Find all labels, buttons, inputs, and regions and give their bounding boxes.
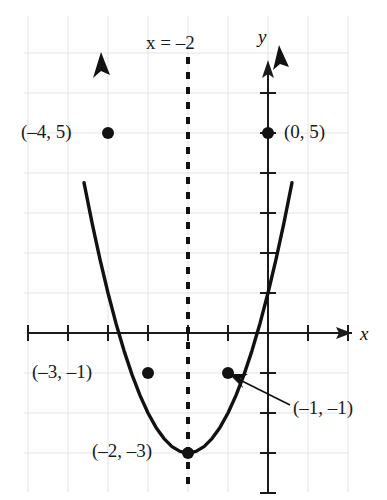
data-point-p-n1-n1	[222, 367, 234, 379]
y-axis-label: y	[258, 27, 266, 46]
data-point-p-n3-n1	[142, 367, 154, 379]
data-point-p-0-5	[262, 127, 274, 139]
x-axis-label: x	[360, 324, 368, 343]
point-label-0-5: (0, 5)	[284, 122, 325, 141]
data-point-p-n4-5	[102, 127, 114, 139]
data-point-p-n2-n3	[182, 447, 194, 459]
curve-left-arrowhead	[93, 52, 110, 78]
graph-figure: x y x = –2 (–4, 5) (0, 5) (–3, –1) (–1, …	[0, 0, 387, 500]
point-label-neg4-5: (–4, 5)	[21, 122, 72, 141]
point-label-neg3-neg1: (–3, –1)	[32, 362, 92, 381]
curve-right-arrowhead	[273, 45, 289, 70]
point-label-neg1-neg1: (–1, –1)	[293, 398, 353, 417]
point-label-neg2-neg3: (–2, –3)	[92, 441, 152, 460]
coordinate-plane-svg	[0, 0, 387, 500]
axis-of-symmetry-label: x = –2	[146, 33, 195, 52]
